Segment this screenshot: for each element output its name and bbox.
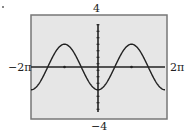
y-min-label: −4 [91,121,107,132]
scan-artifact [2,6,4,8]
x-max-label: 2π [170,62,184,73]
y-max-label: 4 [93,3,100,14]
x-min-label: −2π [8,62,31,73]
